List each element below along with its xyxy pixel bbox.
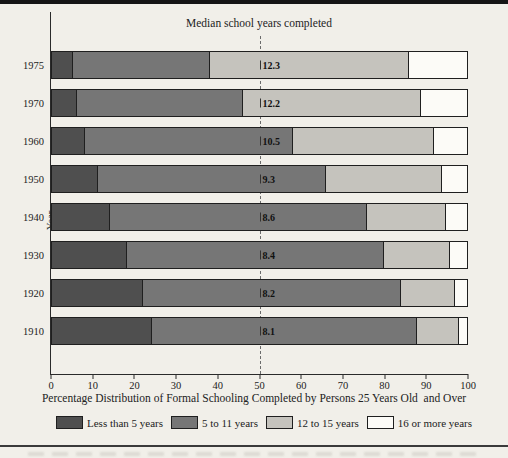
segment-12-to-15-years: [293, 128, 434, 154]
segment-less-than-5-years: [52, 204, 110, 230]
year-label: 1975: [23, 60, 44, 71]
chart-page: Median school years completed Year 19751…: [0, 0, 508, 458]
bar-row-1910: 19108.1: [51, 317, 468, 345]
legend-item: 5 to 11 years: [171, 416, 258, 429]
legend-item: Less than 5 years: [56, 416, 163, 429]
segment-12-to-15-years: [401, 280, 455, 306]
segment-less-than-5-years: [52, 90, 77, 116]
bar-row-1930: 19308.4: [51, 241, 468, 269]
tick-mark: [301, 374, 302, 379]
segment-less-than-5-years: [52, 166, 98, 192]
bar-row-1970: 197012.2: [51, 89, 468, 117]
legend-swatch: [171, 416, 198, 429]
segment-12-to-15-years: [326, 166, 442, 192]
median-value-label: 8.2: [260, 288, 276, 299]
segment-less-than-5-years: [52, 280, 143, 306]
legend-swatch: [56, 416, 83, 429]
median-value-label: 8.4: [260, 250, 276, 261]
tick-mark: [176, 374, 177, 379]
tick-mark: [342, 374, 343, 379]
tick-label: 80: [379, 380, 390, 391]
segment-16-or-more-years: [442, 166, 467, 192]
tick-mark: [217, 374, 218, 379]
year-label: 1970: [23, 98, 44, 109]
segment-5-to-11-years: [127, 242, 384, 268]
segment-less-than-5-years: [52, 318, 152, 344]
year-label: 1910: [23, 326, 44, 337]
segment-12-to-15-years: [367, 204, 446, 230]
tick-mark: [426, 374, 427, 379]
legend-item: 12 to 15 years: [266, 416, 359, 429]
year-label: 1940: [23, 212, 44, 223]
segment-16-or-more-years: [446, 204, 467, 230]
median-value-label: 10.5: [260, 136, 281, 147]
year-label: 1960: [23, 136, 44, 147]
legend-label: Less than 5 years: [87, 417, 163, 429]
tick-mark: [259, 374, 260, 379]
legend-label: 12 to 15 years: [297, 417, 359, 429]
bar-row-1960: 196010.5: [51, 127, 468, 155]
legend-label: 16 or more years: [398, 417, 472, 429]
median-value-label: 12.3: [260, 60, 281, 71]
segment-5-to-11-years: [110, 204, 367, 230]
tick-label: 50: [254, 380, 265, 391]
year-label: 1920: [23, 288, 44, 299]
plot-area: Year 197512.3197012.2196010.519509.31940…: [50, 12, 468, 375]
segment-16-or-more-years: [434, 128, 467, 154]
legend-swatch: [266, 416, 293, 429]
tick-mark: [51, 374, 52, 379]
bar-row-1940: 19408.6: [51, 203, 468, 231]
tick-label: 90: [421, 380, 432, 391]
tick-mark: [134, 374, 135, 379]
year-label: 1950: [23, 174, 44, 185]
segment-5-to-11-years: [77, 90, 243, 116]
legend-item: 16 or more years: [367, 416, 472, 429]
segment-12-to-15-years: [210, 52, 409, 78]
tick-mark: [384, 374, 385, 379]
legend-swatch: [367, 416, 394, 429]
bar-row-1950: 19509.3: [51, 165, 468, 193]
segment-5-to-11-years: [73, 52, 210, 78]
top-border-rule: [0, 0, 508, 4]
median-value-label: 8.1: [260, 326, 276, 337]
segment-less-than-5-years: [52, 52, 73, 78]
segment-5-to-11-years: [152, 318, 418, 344]
tick-label: 100: [460, 380, 476, 391]
tick-label: 0: [48, 380, 53, 391]
legend: Less than 5 years5 to 11 years12 to 15 y…: [56, 416, 472, 429]
segment-5-to-11-years: [98, 166, 326, 192]
legend-label: 5 to 11 years: [202, 417, 258, 429]
segment-16-or-more-years: [459, 318, 467, 344]
segment-16-or-more-years: [455, 280, 467, 306]
segment-12-to-15-years: [417, 318, 459, 344]
segment-16-or-more-years: [409, 52, 467, 78]
median-value-label: 12.2: [260, 98, 281, 109]
segment-less-than-5-years: [52, 128, 85, 154]
tick-label: 60: [296, 380, 307, 391]
year-label: 1930: [23, 250, 44, 261]
segment-less-than-5-years: [52, 242, 127, 268]
tick-label: 40: [213, 380, 224, 391]
tick-label: 20: [129, 380, 140, 391]
bar-row-1920: 19208.2: [51, 279, 468, 307]
bottom-border-rule: [0, 445, 508, 447]
segment-16-or-more-years: [421, 90, 467, 116]
tick-label: 10: [87, 380, 98, 391]
median-value-label: 9.3: [260, 174, 276, 185]
tick-mark: [92, 374, 93, 379]
median-value-label: 8.6: [260, 212, 276, 223]
tick-label: 70: [338, 380, 349, 391]
tick-label: 30: [171, 380, 182, 391]
tick-mark: [468, 374, 469, 379]
segment-12-to-15-years: [384, 242, 450, 268]
cutoff-source-text-smudge: [28, 452, 480, 456]
segment-16-or-more-years: [450, 242, 467, 268]
bar-row-1975: 197512.3: [51, 51, 468, 79]
x-axis-caption: Percentage Distribution of Formal School…: [0, 392, 508, 404]
